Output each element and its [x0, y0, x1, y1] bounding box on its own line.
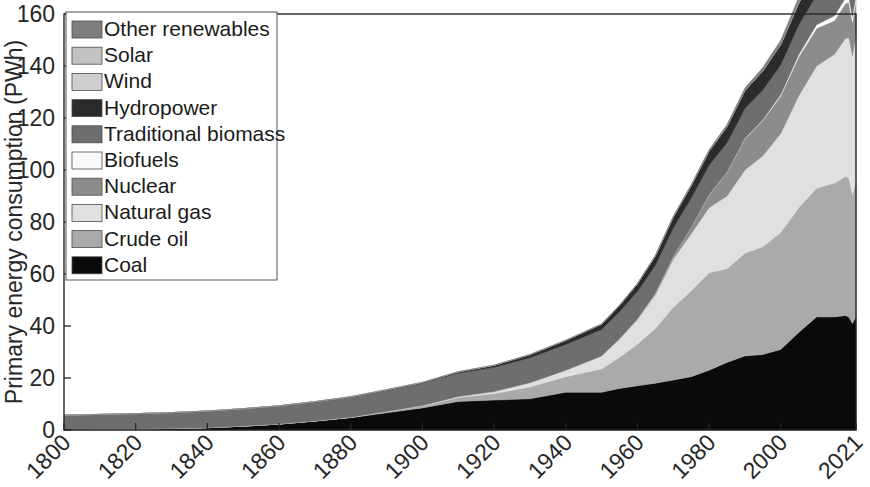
x-tick-label: 2021 [813, 429, 868, 484]
legend-label-hydropower: Hydropower [104, 96, 217, 119]
y-tick-label: 160 [17, 1, 55, 27]
x-axis-ticks: 1800182018401860188019001920194019601980… [21, 423, 868, 484]
x-tick-label: 1860 [236, 429, 291, 484]
legend-label-solar: Solar [104, 43, 153, 66]
legend-swatch-crude-oil [72, 231, 102, 248]
x-tick-label: 1960 [594, 429, 649, 484]
legend-swatch-other-renewables [72, 21, 102, 38]
y-tick-label: 20 [29, 365, 55, 391]
y-tick-label: 60 [29, 261, 55, 287]
legend-swatch-wind [72, 73, 102, 90]
chart-legend: Other renewablesSolarWindHydropowerTradi… [66, 12, 285, 280]
x-tick-label: 1940 [523, 429, 578, 484]
x-tick-label: 1840 [164, 429, 219, 484]
legend-swatch-nuclear [72, 178, 102, 195]
legend-swatch-coal [72, 257, 102, 274]
y-axis-title-text: Primary energy consumption (PWh) [1, 40, 27, 404]
legend-label-natural-gas: Natural gas [104, 200, 211, 223]
x-tick-label: 2000 [738, 429, 793, 484]
x-tick-label: 1980 [666, 429, 721, 484]
legend-swatch-traditional-biomass [72, 126, 102, 143]
legend-swatch-hydropower [72, 100, 102, 117]
y-axis-title: Primary energy consumption (PWh) [1, 40, 27, 404]
legend-label-nuclear: Nuclear [104, 174, 176, 197]
x-tick-label: 1880 [308, 429, 363, 484]
legend-swatch-natural-gas [72, 204, 102, 221]
y-tick-label: 40 [29, 313, 55, 339]
x-tick-label: 1800 [21, 429, 76, 484]
legend-label-coal: Coal [104, 253, 147, 276]
stacked-area-chart: 020406080100120140160 180018201840186018… [0, 0, 870, 487]
legend-label-other-renewables: Other renewables [104, 17, 270, 40]
legend-label-traditional-biomass: Traditional biomass [104, 122, 285, 145]
energy-consumption-chart-figure: 020406080100120140160 180018201840186018… [0, 0, 870, 487]
legend-swatch-biofuels [72, 152, 102, 169]
legend-label-wind: Wind [104, 69, 152, 92]
x-tick-label: 1900 [379, 429, 434, 484]
x-tick-label: 1820 [93, 429, 148, 484]
y-tick-label: 80 [29, 209, 55, 235]
legend-swatch-solar [72, 47, 102, 64]
x-tick-label: 1920 [451, 429, 506, 484]
legend-label-crude-oil: Crude oil [104, 227, 188, 250]
legend-label-biofuels: Biofuels [104, 148, 179, 171]
